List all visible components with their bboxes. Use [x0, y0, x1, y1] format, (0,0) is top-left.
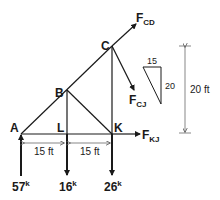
- load-57-label: 57k: [12, 179, 30, 194]
- fcj-label: FCJ: [129, 93, 147, 109]
- slope-vertical-label: 20: [165, 81, 175, 91]
- member-bk: [67, 90, 112, 134]
- fcj-arrow: [112, 46, 134, 90]
- node-l-label: L: [57, 121, 64, 135]
- truss-members: [21, 46, 112, 134]
- load-26-label: 26k: [104, 179, 122, 194]
- span1-label: 15 ft: [34, 146, 54, 157]
- node-k-label: K: [114, 121, 123, 135]
- node-b-label: B: [55, 86, 64, 100]
- slope-horizontal-label: 15: [147, 56, 157, 66]
- node-c-label: C: [101, 39, 110, 53]
- fcd-label: FCD: [136, 11, 155, 27]
- span2-label: 15 ft: [80, 146, 100, 157]
- height-label: 20 ft: [190, 84, 210, 95]
- node-a-label: A: [10, 121, 19, 135]
- load-16-label: 16k: [59, 179, 77, 194]
- truss-diagram: A B C L K FCD FCJ FKJ 57k 16k 26k 15 ft …: [0, 0, 220, 200]
- fkj-label: FKJ: [142, 128, 160, 144]
- fcd-arrow: [112, 24, 136, 46]
- slope-triangle: [143, 67, 161, 104]
